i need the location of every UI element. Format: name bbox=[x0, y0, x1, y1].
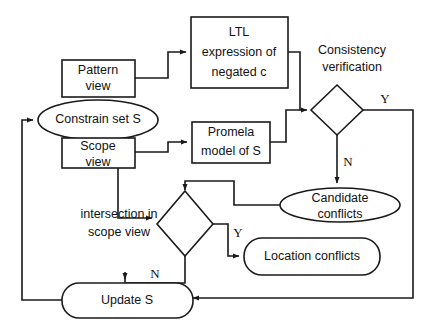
label-scope-view-line1: Scope bbox=[80, 139, 115, 153]
edge-promela-to-consistency bbox=[270, 110, 300, 142]
label-ltl-line1: LTL bbox=[229, 25, 250, 39]
label-location-conflicts: Location conflicts bbox=[264, 249, 360, 263]
edge-label-consistency-yes: Y bbox=[380, 91, 390, 106]
node-consistency-verification-decision bbox=[311, 85, 363, 135]
flowchart-canvas: Pattern view Constrain set S Scope view … bbox=[0, 0, 426, 332]
edge-candidate-conflicts-to-intersection bbox=[185, 181, 280, 205]
flowchart-diagram: Pattern view Constrain set S Scope view … bbox=[0, 0, 426, 332]
label-candidate-conflicts-line2: conflicts bbox=[317, 207, 362, 221]
label-scope-view-line2: view bbox=[85, 155, 111, 169]
edge-label-intersection-no: N bbox=[150, 266, 160, 281]
label-pattern-view-line1: Pattern bbox=[78, 63, 118, 77]
label-intersection-line2: scope view bbox=[88, 225, 151, 239]
edge-update-s-to-constrain-set bbox=[22, 120, 62, 300]
label-consistency-verification-line1: Consistency bbox=[318, 43, 387, 57]
edge-ltl-to-consistency bbox=[288, 52, 307, 110]
edge-label-consistency-no: N bbox=[343, 154, 353, 169]
label-pattern-view-line2: view bbox=[85, 79, 111, 93]
label-promela-line2: model of S bbox=[201, 144, 261, 158]
label-candidate-conflicts-line1: Candidate bbox=[312, 191, 369, 205]
label-intersection-line1: intersection in bbox=[80, 207, 157, 221]
label-promela-line1: Promela bbox=[208, 125, 255, 139]
edge-pattern-view-to-ltl bbox=[135, 52, 186, 78]
label-constrain-set-s: Constrain set S bbox=[55, 112, 140, 126]
edge-scope-view-to-promela bbox=[135, 142, 187, 152]
label-update-s: Update S bbox=[101, 293, 153, 307]
label-ltl-line2: expression of bbox=[202, 45, 277, 59]
label-consistency-verification-line2: verification bbox=[322, 60, 382, 74]
label-ltl-line3: negated c bbox=[212, 65, 267, 79]
edge-label-intersection-yes: Y bbox=[233, 225, 243, 240]
node-intersection-decision bbox=[157, 191, 213, 256]
